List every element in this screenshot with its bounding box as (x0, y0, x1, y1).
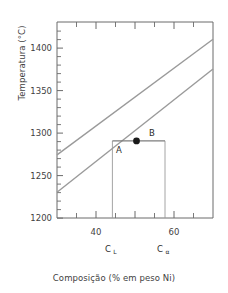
composition-label-cl: C L (105, 244, 117, 255)
x-tick-labels: 40 60 (91, 227, 180, 237)
x-tick-label-60: 60 (169, 227, 180, 237)
x-axis-title-text: Composição (% em peso Ni) (53, 273, 175, 283)
x-axis-title: Composição (% em peso Ni) (0, 266, 228, 285)
x-tick-label-40: 40 (91, 227, 102, 237)
label-point-b: B (149, 128, 155, 138)
cl-symbol: C (105, 244, 111, 254)
calpha-subscript: α (166, 248, 170, 255)
composition-label-calpha: C α (157, 244, 169, 255)
y-tick-labels: 1200 1250 1300 1350 1400 (30, 43, 52, 223)
phase-diagram-plot: 1200 1250 1300 1350 1400 (0, 0, 228, 293)
cl-subscript: L (113, 248, 117, 255)
y-tick-label-1250: 1250 (30, 171, 52, 181)
y-tick-label-1400: 1400 (30, 43, 52, 53)
y-axis-title: Temperatura (°C) (10, 0, 26, 133)
calpha-symbol: C (157, 244, 163, 254)
composition-point-marker (133, 138, 140, 145)
phase-diagram-figure: 1200 1250 1300 1350 1400 (0, 0, 228, 293)
y-tick-label-1350: 1350 (30, 86, 52, 96)
y-tick-label-1200: 1200 (30, 213, 52, 223)
plot-background (57, 22, 213, 218)
y-tick-label-1300: 1300 (30, 128, 52, 138)
label-point-a: A (116, 145, 122, 155)
y-axis-title-text: Temperatura (°C) (17, 25, 27, 100)
